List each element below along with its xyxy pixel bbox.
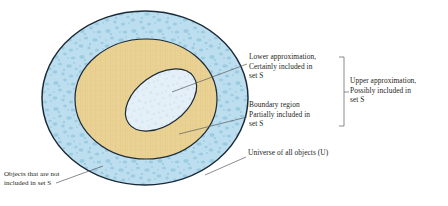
label-lower-approximation: Lower approximation, Certainly included … [249, 52, 345, 81]
label-upper-approximation: Upper approximation, Possibly included i… [350, 76, 444, 105]
rough-set-diagram: Lower approximation, Certainly included … [0, 0, 448, 206]
label-objects-outside-set: Objects that are not included in set S [4, 170, 109, 188]
label-universe: Universe of all objects (U) [248, 148, 368, 158]
label-boundary-region: Boundary region Partially included in se… [249, 100, 345, 129]
